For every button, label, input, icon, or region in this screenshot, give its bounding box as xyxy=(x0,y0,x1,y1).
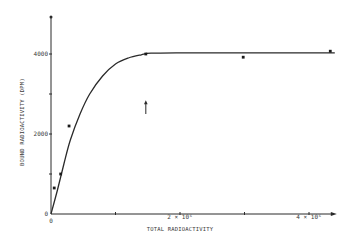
fitted-curve xyxy=(51,53,335,214)
x-tick-label: 2 × 10⁶ xyxy=(167,213,192,220)
data-point xyxy=(59,173,62,176)
y-tick-label: 0 xyxy=(44,210,48,217)
x-tick-label: 0 xyxy=(49,217,53,224)
data-point xyxy=(329,50,332,53)
ticks: 02 × 10⁶4 × 10⁶020004000 xyxy=(34,50,322,224)
annotations xyxy=(144,100,148,114)
annotation-arrow-head xyxy=(144,100,148,104)
x-tick-label: 4 × 10⁶ xyxy=(296,213,321,220)
y-tick-label: 2000 xyxy=(34,130,49,137)
curve-group xyxy=(51,53,335,214)
points-group xyxy=(53,50,332,190)
x-axis-arrowhead xyxy=(331,212,337,216)
chart: 02 × 10⁶4 × 10⁶020004000 TOTAL RADIOACTI… xyxy=(0,0,364,242)
chart-svg: 02 × 10⁶4 × 10⁶020004000 TOTAL RADIOACTI… xyxy=(0,0,364,242)
data-point xyxy=(68,125,71,128)
y-axis-end-mark xyxy=(50,16,53,19)
y-axis-title: BOUND RADIOACTIVITY (DPM) xyxy=(19,78,25,166)
axes xyxy=(50,16,337,217)
data-point xyxy=(242,56,245,59)
x-axis-title: TOTAL RADIOACTIVITY xyxy=(147,226,214,232)
data-point xyxy=(144,53,147,56)
y-tick-label: 4000 xyxy=(34,50,49,57)
data-point xyxy=(53,187,56,190)
